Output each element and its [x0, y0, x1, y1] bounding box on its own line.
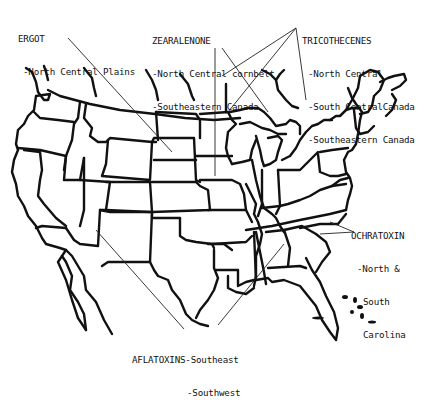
tricothecenes-region-3: -Southeastern Canada: [302, 134, 415, 145]
tricothecenes-region-1: -North Central: [302, 68, 415, 79]
tricothecenes-label: TRICOTHECENES -North Central -South Cent…: [302, 13, 415, 167]
aflatoxins-title: AFLATOXINS-Southeast: [132, 354, 240, 365]
ergot-label: ERGOT -North Central Plains: [18, 11, 135, 99]
tricothecenes-title: TRICOTHECENES: [302, 35, 415, 46]
zearalenone-region-2: -Southeastern Canada: [152, 101, 275, 112]
ochratoxin-leader-line-2: [320, 232, 354, 234]
ochratoxin-region-3: Carolina: [351, 329, 406, 340]
ergot-region: -North Central Plains: [18, 66, 135, 77]
ochratoxin-title: OCHRATOXIN: [351, 230, 406, 241]
zearalenone-label: ZEARALENONE -North Central cornbelt -Sou…: [152, 13, 275, 134]
zearalenone-title: ZEARALENONE: [152, 35, 275, 46]
ochratoxin-label: OCHRATOXIN -North & South Carolina: [351, 208, 406, 362]
aflatoxins-label: AFLATOXINS-Southeast -Southwest: [132, 332, 240, 400]
tricothecenes-region-2: -South CentralCanada: [302, 101, 415, 112]
zearalenone-region-1: -North Central cornbelt: [152, 68, 275, 79]
ochratoxin-region-1: -North &: [351, 263, 406, 274]
aflatoxins-leader-line-1: [96, 230, 184, 329]
ergot-title: ERGOT: [18, 33, 135, 44]
ochratoxin-region-2: South: [351, 296, 406, 307]
aflatoxins-region-1: -Southwest: [132, 387, 240, 398]
